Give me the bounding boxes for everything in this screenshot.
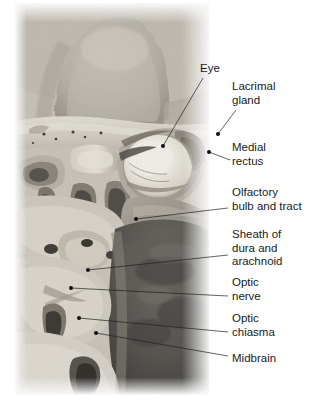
label-midbrain: Midbrain [232, 352, 276, 366]
anchor-dot-lacrimal-gland [216, 132, 220, 136]
label-medial-rectus: Medial rectus [232, 141, 266, 168]
label-optic-chiasma: Optic chiasma [232, 312, 275, 339]
label-sheath-of-dura-and-arachnoid: Sheath of dura and arachnoid [232, 228, 283, 269]
label-olfactory-bulb-and-tract: Olfactory bulb and tract [232, 186, 302, 213]
label-optic-nerve: Optic nerve [232, 276, 261, 303]
figure-page: 3.23 [0, 0, 317, 412]
leader-line-medial-rectus [209, 152, 230, 160]
label-eye: Eye [200, 62, 220, 76]
specimen-photograph [15, 3, 209, 395]
leader-line-lacrimal-gland [218, 110, 236, 134]
label-lacrimal-gland: Lacrimal gland [232, 80, 275, 107]
